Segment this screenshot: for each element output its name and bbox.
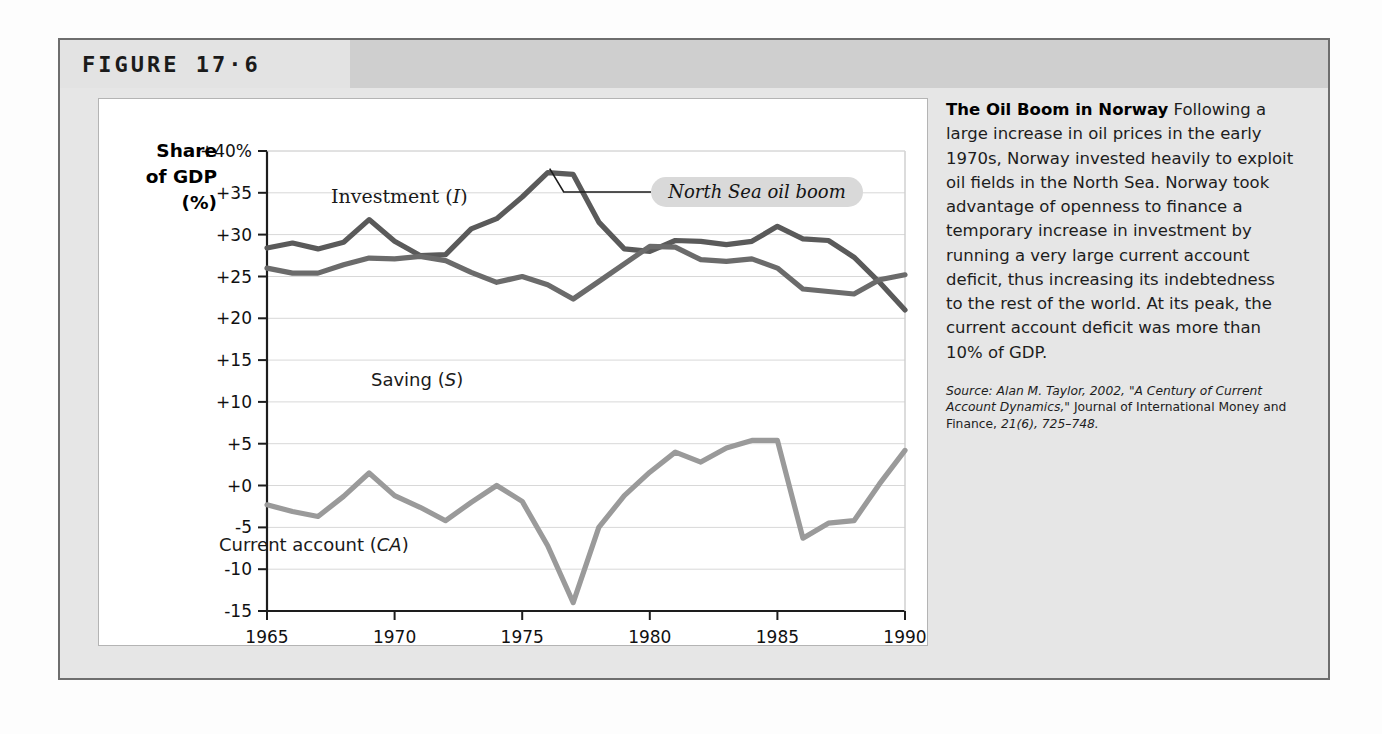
chart-panel: +40%+35+30+25+20+15+10+5+0-5-10-15 19651… (98, 98, 928, 646)
series-label-symbol: S (445, 369, 456, 390)
caption-text: Following a large increase in oil prices… (946, 100, 1293, 362)
y-tick-label: +35 (216, 183, 252, 203)
caption-paragraph: The Oil Boom in Norway Following a large… (946, 98, 1296, 365)
y-tick-label: +15 (216, 350, 252, 370)
series-line (267, 246, 905, 299)
figure-header: FIGURE 17·6 (60, 40, 1328, 88)
series-label-name: Current account ( (219, 534, 377, 555)
x-tick-label: 1970 (373, 627, 416, 645)
x-tick-label: 1975 (501, 627, 544, 645)
figure-number: FIGURE 17·6 (82, 52, 261, 77)
y-tick-label: -10 (224, 559, 252, 579)
y-axis-title: Shareof GDP(%) (146, 140, 217, 213)
annotation-label: North Sea oil boom (667, 181, 846, 202)
chart-annotations: North Sea oil boom (550, 169, 863, 207)
series-label-close: ) (460, 185, 467, 207)
x-tick-label: 1980 (628, 627, 671, 645)
series-label: Investment (I) (331, 185, 468, 207)
caption-source: Source: Alan M. Taylor, 2002, "A Century… (946, 383, 1296, 432)
y-axis-title-line: (%) (182, 192, 217, 213)
series-label: Current account (CA) (219, 534, 409, 555)
figure-card: FIGURE 17·6 +40%+35+30+25+20+15+10+5+0-5… (58, 38, 1330, 680)
y-tick-label: +20 (216, 308, 252, 328)
series-line (267, 440, 905, 602)
x-tick-label: 1990 (883, 627, 926, 645)
series-label-close: ) (456, 369, 463, 390)
y-tick-label: +0 (227, 476, 252, 496)
y-tick-label: +10 (216, 392, 252, 412)
series-label: Saving (S) (371, 369, 463, 390)
grid-lines (267, 151, 905, 569)
figure-header-left-block: FIGURE 17·6 (60, 40, 350, 88)
x-tick-label: 1985 (756, 627, 799, 645)
y-tick-label: +5 (227, 434, 252, 454)
figure-header-right-band (350, 40, 1328, 88)
series-label-close: ) (402, 534, 409, 555)
y-tick-label: +30 (216, 225, 252, 245)
line-chart: +40%+35+30+25+20+15+10+5+0-5-10-15 19651… (99, 99, 927, 645)
x-tick-label: 1965 (245, 627, 288, 645)
caption-title: The Oil Boom in Norway (946, 100, 1168, 119)
y-tick-label: +25 (216, 267, 252, 287)
y-axis-title-line: Share (156, 140, 217, 161)
x-axis-tick-labels: 196519701975198019851990 (245, 611, 926, 645)
y-axis-title-line: of GDP (146, 166, 217, 187)
series-label-name: Investment ( (331, 185, 453, 207)
series-label-name: Saving ( (371, 369, 445, 390)
series-label-symbol: CA (377, 534, 402, 555)
caption-column: The Oil Boom in Norway Following a large… (946, 98, 1296, 646)
source-citation: 21(6), 725–748. (1001, 417, 1099, 431)
y-tick-label: -15 (224, 601, 252, 621)
